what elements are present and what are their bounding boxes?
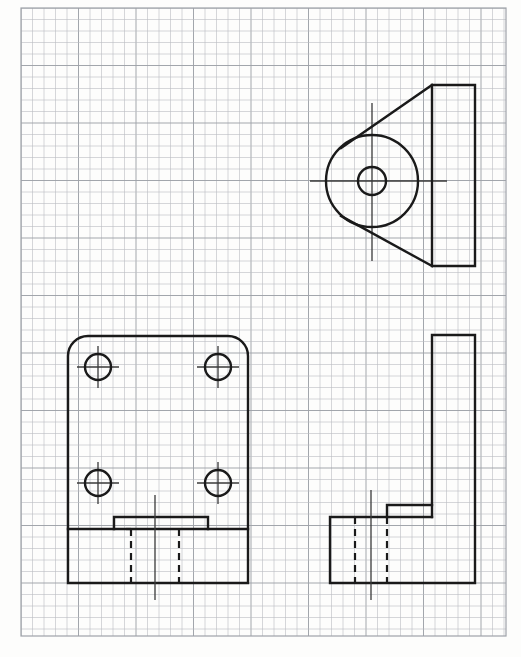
- drawing-sheet: [0, 0, 521, 657]
- side-view-outline: [330, 335, 475, 583]
- graph-paper-grid: [21, 8, 506, 636]
- orthographic-drawing-canvas: [0, 0, 521, 657]
- grid-border: [21, 8, 506, 636]
- plate-rectangle: [432, 85, 475, 266]
- plate-outline: [68, 336, 248, 583]
- view-top: [310, 85, 475, 266]
